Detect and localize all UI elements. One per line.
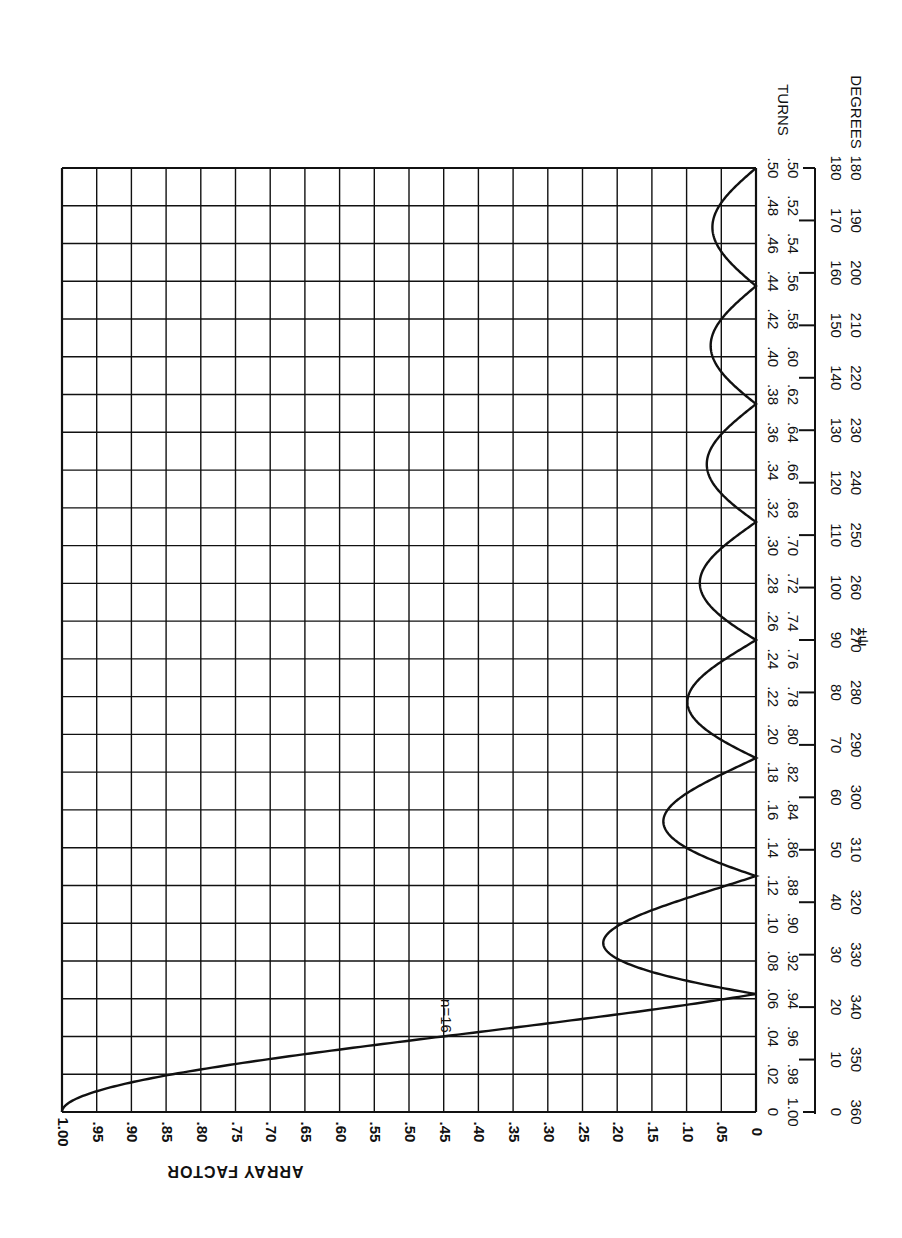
degrees-secondary-tick-label: 280 — [848, 680, 865, 705]
turns-secondary-tick-label: .62 — [785, 384, 802, 405]
turns-tick-label: .40 — [765, 346, 782, 367]
turns-tick-label: .18 — [765, 762, 782, 783]
turns-secondary-tick-label: .84 — [785, 799, 802, 820]
degrees-secondary-tick-label: 200 — [848, 260, 865, 285]
y-tick-label: .35 — [506, 1122, 523, 1143]
y-tick-label: .15 — [645, 1122, 662, 1143]
turns-secondary-tick-label: .90 — [785, 913, 802, 934]
degrees-tick-label: 90 — [828, 632, 845, 649]
turns-secondary-tick-label: .74 — [785, 611, 802, 632]
turns-secondary-tick-label: .60 — [785, 346, 802, 367]
turns-secondary-tick-label: .76 — [785, 648, 802, 669]
degrees-tick-label: 10 — [828, 1051, 845, 1068]
degrees-secondary-tick-label: 340 — [848, 995, 865, 1020]
turns-secondary-tick-label: .88 — [785, 875, 802, 896]
turns-tick-label: .16 — [765, 799, 782, 820]
turns-secondary-tick-label: .54 — [785, 233, 802, 254]
curve-annotation-n16: n=16 — [438, 999, 455, 1033]
degrees-tick-label: 20 — [828, 999, 845, 1016]
turns-secondary-tick-label: .70 — [785, 535, 802, 556]
degrees-secondary-tick-label: 180 — [848, 155, 865, 180]
turns-tick-label: .24 — [765, 648, 782, 669]
degrees-tick-label: 0 — [828, 1108, 845, 1116]
degrees-tick-label: 160 — [828, 260, 845, 285]
degrees-tick-label: 60 — [828, 789, 845, 806]
degrees-secondary-tick-label: 260 — [848, 575, 865, 600]
turns-tick-label: .50 — [765, 158, 782, 179]
turns-secondary-tick-label: .82 — [785, 762, 802, 783]
degrees-tick-label: 70 — [828, 737, 845, 754]
degrees-tick-label: 180 — [828, 155, 845, 180]
y-tick-label: .50 — [402, 1122, 419, 1143]
turns-tick-label: .42 — [765, 309, 782, 330]
y-tick-label: .05 — [714, 1122, 731, 1143]
degrees-secondary-tick-label: 300 — [848, 785, 865, 810]
turns-secondary-tick-label: .50 — [785, 158, 802, 179]
degrees-secondary-tick-label: 290 — [848, 732, 865, 757]
y-tick-label: .65 — [298, 1122, 315, 1143]
turns-tick-label: .12 — [765, 875, 782, 896]
turns-tick-label: .22 — [765, 686, 782, 707]
degrees-tick-label: 120 — [828, 470, 845, 495]
x-axis-title: ±ψ — [855, 628, 872, 647]
turns-tick-label: .04 — [765, 1026, 782, 1047]
y-tick-label: 1.00 — [55, 1117, 72, 1146]
y-tick-label: .80 — [194, 1122, 211, 1143]
degrees-tick-label: 40 — [828, 894, 845, 911]
turns-tick-label: .34 — [765, 460, 782, 481]
degrees-title: DEGREES — [848, 75, 865, 148]
degrees-secondary-tick-label: 230 — [848, 418, 865, 443]
turns-secondary-tick-label: .80 — [785, 724, 802, 745]
y-tick-label: .10 — [680, 1122, 697, 1143]
axis-labels-layer: 1.00.95.90.85.80.75.70.65.60.55.50.45.40… — [55, 75, 872, 1179]
degrees-secondary-tick-label: 240 — [848, 470, 865, 495]
turns-tick-label: .10 — [765, 913, 782, 934]
y-tick-label: .55 — [367, 1122, 384, 1143]
turns-secondary-tick-label: .96 — [785, 1026, 802, 1047]
y-tick-label: .20 — [610, 1122, 627, 1143]
degrees-tick-label: 110 — [828, 523, 845, 547]
y-tick-label: .40 — [471, 1122, 488, 1143]
turns-tick-label: .20 — [765, 724, 782, 745]
y-tick-label: 0 — [749, 1128, 766, 1136]
y-tick-label: .75 — [229, 1122, 246, 1143]
turns-secondary-tick-label: .66 — [785, 460, 802, 481]
degrees-secondary-tick-label: 350 — [848, 1047, 865, 1072]
y-axis-title: ARRAY FACTOR — [166, 1163, 303, 1180]
degrees-secondary-tick-label: 190 — [848, 208, 865, 233]
degrees-tick-label: 170 — [828, 208, 845, 233]
y-tick-label: .25 — [576, 1122, 593, 1143]
y-tick-label: .95 — [90, 1122, 107, 1143]
chart-grid — [62, 168, 756, 1112]
degrees-secondary-tick-label: 220 — [848, 365, 865, 390]
degrees-secondary-tick-label: 320 — [848, 890, 865, 915]
degrees-secondary-tick-label: 250 — [848, 523, 865, 548]
turns-tick-label: .02 — [765, 1064, 782, 1085]
turns-tick-label: .46 — [765, 233, 782, 254]
turns-secondary-tick-label: .92 — [785, 951, 802, 972]
turns-tick-label: .08 — [765, 951, 782, 972]
turns-tick-label: .30 — [765, 535, 782, 556]
turns-tick-label: .28 — [765, 573, 782, 594]
turns-tick-label: .36 — [765, 422, 782, 443]
y-tick-label: .45 — [437, 1122, 454, 1143]
y-tick-label: .90 — [124, 1122, 141, 1143]
turns-tick-label: .26 — [765, 611, 782, 632]
turns-secondary-tick-label: .86 — [785, 837, 802, 858]
turns-tick-label: .48 — [765, 195, 782, 216]
turns-secondary-tick-label: .98 — [785, 1064, 802, 1085]
y-tick-label: .30 — [541, 1122, 558, 1143]
turns-secondary-tick-label: .94 — [785, 988, 802, 1009]
turns-tick-label: .44 — [765, 271, 782, 292]
turns-secondary-tick-label: .68 — [785, 497, 802, 518]
turns-tick-label: .14 — [765, 837, 782, 858]
turns-secondary-tick-label: .72 — [785, 573, 802, 594]
turns-secondary-tick-label: .52 — [785, 195, 802, 216]
array-factor-chart: 1.00.95.90.85.80.75.70.65.60.55.50.45.40… — [0, 0, 902, 1238]
degrees-tick-label: 30 — [828, 946, 845, 963]
y-tick-label: .60 — [333, 1122, 350, 1143]
degrees-tick-label: 80 — [828, 684, 845, 701]
turns-secondary-tick-label: .64 — [785, 422, 802, 443]
turns-secondary-tick-label: .56 — [785, 271, 802, 292]
turns-tick-label: .06 — [765, 988, 782, 1009]
